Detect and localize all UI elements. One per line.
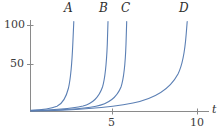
x-tick-label-5: 5 — [108, 117, 115, 128]
curve-label-d: D — [179, 2, 189, 14]
y-tick-label-100: 100 — [4, 19, 25, 30]
curve-label-a: A — [64, 2, 73, 14]
curve-label-c: C — [121, 2, 130, 14]
curve-a — [31, 22, 74, 111]
curve-b — [31, 22, 108, 111]
x-axis-title: t — [212, 104, 216, 115]
exponential-growth-chart: 100 50 5 10 A B C D t — [0, 0, 222, 139]
curve-d — [31, 22, 187, 112]
curve-c — [31, 22, 127, 111]
x-tick-label-10: 10 — [190, 117, 204, 128]
axes-group — [31, 20, 210, 112]
y-tick-label-50: 50 — [10, 58, 24, 69]
series-group — [31, 22, 187, 112]
curve-label-b: B — [99, 2, 108, 14]
